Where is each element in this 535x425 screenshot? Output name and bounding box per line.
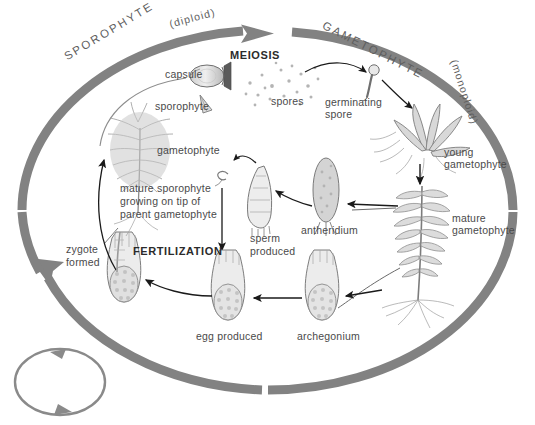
gametophyte-to-archegonium-arrow [346,290,382,296]
young-gametophyte-label-line2: gametophyte [444,158,507,171]
zygote-illustration [107,232,141,302]
egg-produced-label: egg produced [196,330,263,343]
mature-sporophyte-label-line2: growing on tip of [120,195,200,208]
antheridium-connector [352,208,396,210]
archegonium-connector [338,268,400,308]
gametophyte-band-lower [268,212,513,390]
sperm-label-line1: sperm [250,232,280,245]
spores-to-germinating-arrow [305,63,366,72]
sporophyte-label: sporophyte [155,100,209,113]
germinating-spore-label-line2: spore [325,108,352,121]
gametophyte-label: gametophyte [157,144,220,157]
meiosis-label: MEIOSIS [230,49,280,62]
spores-label: spores [271,95,304,108]
sperm-cell-illustration [215,171,228,186]
mature-sporophyte-label-line1: mature sporophyte [120,182,211,195]
young-gametophyte-label-line1: young [444,146,474,159]
sperm-illustration [247,166,271,237]
left-band-segment [22,212,40,272]
archegonium-label: archegonium [297,330,360,343]
antheridium-to-sperm-arrow [276,191,312,206]
capsule-label: capsule [165,68,203,81]
fertilization-arrow [146,280,212,296]
mature-gametophyte-illustration [382,186,454,328]
germinating-spore-label-line1: germinating [325,96,382,109]
sperm-label-line2: produced [250,245,295,258]
zygote-label-line2: formed [66,256,100,269]
gametophyte-to-antheridium-arrow [348,204,398,206]
fertilization-label: FERTILIZATION [133,245,222,258]
cycle-loop-icon [15,349,105,415]
archegonium-illustration [305,250,339,320]
egg-produced-illustration [211,250,245,320]
mature-gametophyte-label-line1: mature [452,212,486,225]
germinating-to-young-arrow [382,80,412,108]
zygote-label-line1: zygote [66,243,98,256]
antheridium-label: antheridium [301,224,358,237]
sperm-release-arrow [234,156,256,163]
mature-sporophyte-label-line3: parent gametophyte [120,208,217,221]
mature-gametophyte-label-line2: gametophyte [452,224,515,237]
